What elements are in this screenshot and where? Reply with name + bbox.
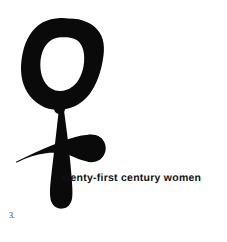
figure-number-caption: 3.: [9, 211, 15, 220]
venus-female-symbol-icon: [0, 0, 227, 242]
tagline-visible-text: wenty-first century women: [62, 172, 201, 184]
poster-canvas: wenty-first century women 3.: [0, 0, 227, 242]
tagline-text: wenty-first century women: [62, 172, 212, 184]
